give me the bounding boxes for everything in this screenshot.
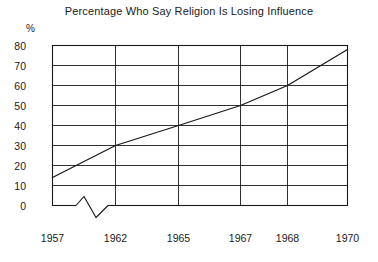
x-axis-break-zigzag xyxy=(76,197,108,218)
axis-break-mask xyxy=(76,204,108,207)
axis-break-polyline xyxy=(76,197,108,218)
chart-container: Percentage Who Say Religion Is Losing In… xyxy=(0,0,378,262)
data-series-line xyxy=(53,50,348,178)
horizontal-gridlines xyxy=(53,66,348,186)
series-line-religion-losing-influence xyxy=(53,50,348,178)
plot-area xyxy=(0,0,378,262)
